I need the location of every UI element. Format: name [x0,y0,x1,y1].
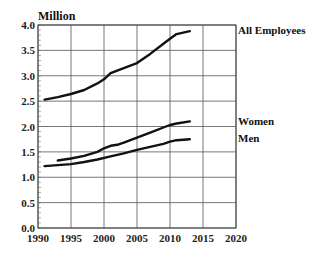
women-label: Women [238,115,274,127]
y-tick-label: 2.0 [21,121,35,133]
y-axis-label: Million [38,9,76,23]
x-tick-label: 2020 [225,232,248,244]
series-labels: All EmployeesWomenMen [238,24,306,144]
y-tick-label: 1.0 [21,171,35,183]
x-tick-label: 2010 [159,232,182,244]
y-tick-label: 3.5 [21,44,35,56]
y-tick-label: 0.5 [21,197,35,209]
y-axis-tick-labels: 0.00.51.01.52.02.53.03.54.0 [21,19,35,234]
x-tick-label: 2005 [126,232,149,244]
grid-lines [38,25,236,228]
men-label: Men [238,132,259,144]
x-tick-label: 2015 [192,232,215,244]
y-tick-label: 3.0 [21,70,35,82]
x-tick-label: 1990 [27,232,50,244]
x-axis-tick-labels: 1990199520002005201020152020 [27,232,248,244]
series-lines [45,31,190,166]
line-chart: 0.00.51.01.52.02.53.03.54.0 199019952000… [0,0,315,262]
all-employees-line [45,31,190,100]
y-tick-label: 1.5 [21,146,35,158]
x-tick-label: 1995 [60,232,83,244]
men-line [45,139,190,166]
y-tick-label: 4.0 [21,19,35,31]
all-employees-label: All Employees [238,24,306,36]
y-tick-label: 2.5 [21,95,35,107]
x-tick-label: 2000 [93,232,116,244]
